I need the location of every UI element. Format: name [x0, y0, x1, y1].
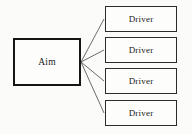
node-driver-label: Driver [129, 108, 154, 118]
connector-line-2 [81, 50, 104, 62]
node-driver-4[interactable]: Driver [105, 100, 177, 126]
node-driver-label: Driver [129, 14, 154, 24]
node-aim-label: Aim [38, 57, 56, 67]
connector-line-4 [81, 62, 104, 113]
connector-line-1 [81, 19, 104, 62]
diagram-canvas: Aim Driver Driver Driver Driver [0, 0, 192, 134]
node-driver-3[interactable]: Driver [105, 68, 177, 94]
connector-line-3 [81, 62, 104, 81]
node-aim[interactable]: Aim [13, 38, 81, 86]
node-driver-2[interactable]: Driver [105, 37, 177, 63]
node-driver-label: Driver [129, 45, 154, 55]
node-driver-label: Driver [129, 76, 154, 86]
node-driver-1[interactable]: Driver [105, 6, 177, 32]
